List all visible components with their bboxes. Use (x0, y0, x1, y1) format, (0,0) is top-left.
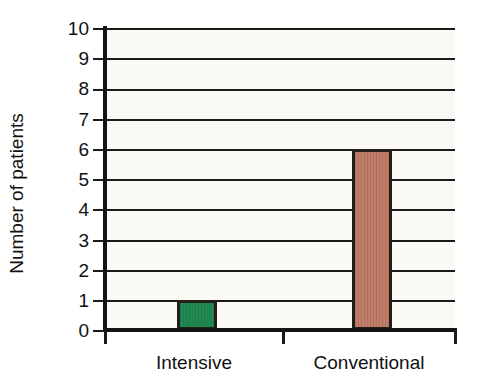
gridline-2 (105, 270, 455, 272)
gridline-9 (105, 58, 455, 60)
x-tick-mark-left (104, 330, 107, 344)
x-axis-line (103, 328, 457, 332)
y-tick-label-8: 8 (63, 79, 89, 98)
gridline-3 (105, 240, 455, 242)
bar-texture-intensive (180, 303, 214, 327)
y-axis-line (103, 26, 107, 332)
bar-conventional[interactable] (352, 149, 392, 330)
x-tick-mark-right (454, 330, 457, 344)
y-tick-label-2: 2 (63, 261, 89, 280)
x-label-intensive: Intensive (105, 352, 283, 374)
gridline-5 (105, 179, 455, 181)
gridline-7 (105, 119, 455, 121)
gridline-10 (105, 28, 455, 30)
bar-texture-conventional (355, 152, 389, 327)
y-axis-tick-labels: 10 9 8 7 6 5 4 3 2 1 0 (57, 0, 89, 387)
y-tick-label-6: 6 (63, 140, 89, 159)
gridline-8 (105, 89, 455, 91)
x-tick-mark-middle (282, 330, 285, 344)
y-tick-label-10: 10 (63, 19, 89, 38)
gridline-6 (105, 149, 455, 151)
y-tick-label-5: 5 (63, 170, 89, 189)
y-tick-label-3: 3 (63, 231, 89, 250)
y-tick-label-4: 4 (63, 200, 89, 219)
x-label-conventional: Conventional (283, 352, 455, 374)
y-tick-label-9: 9 (63, 49, 89, 68)
y-tick-label-0: 0 (63, 321, 89, 340)
bar-chart: Number of patients 10 9 8 7 6 5 4 3 2 1 … (0, 0, 478, 387)
y-tick-label-1: 1 (63, 291, 89, 310)
y-tick-label-7: 7 (63, 110, 89, 129)
gridline-4 (105, 209, 455, 211)
y-axis-title: Number of patients (0, 0, 34, 387)
gridline-1 (105, 300, 455, 302)
bar-intensive[interactable] (177, 300, 217, 330)
plot-area (105, 28, 455, 330)
